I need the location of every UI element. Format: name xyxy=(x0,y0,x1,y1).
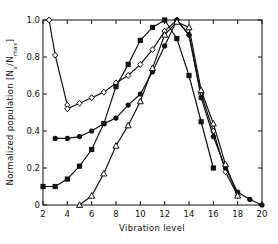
square-marker xyxy=(40,184,45,189)
diamond-marker xyxy=(77,100,82,106)
circle-marker xyxy=(77,134,82,139)
circle-marker xyxy=(126,103,131,108)
x-tick-label: 4 xyxy=(65,209,70,219)
y-axis-label: Normalized population [Nv/Nmax] xyxy=(5,38,18,185)
square-marker xyxy=(89,147,94,152)
square-marker xyxy=(65,177,70,182)
series-open-diamond xyxy=(46,17,240,199)
series-line xyxy=(49,20,238,196)
x-axis-label: Vibration level xyxy=(119,223,185,233)
square-marker xyxy=(186,73,191,78)
x-tick-label: 14 xyxy=(184,209,195,219)
y-tick-label: 0.2 xyxy=(26,163,40,173)
square-marker xyxy=(53,184,58,189)
triangle-marker xyxy=(137,98,143,104)
square-marker xyxy=(150,25,155,30)
square-marker xyxy=(211,165,216,170)
square-marker xyxy=(113,84,118,89)
circle-marker xyxy=(162,43,167,48)
diamond-marker xyxy=(46,17,51,23)
square-marker xyxy=(162,17,167,22)
chart: 246810121416182000.20.40.60.81.0 Vibrati… xyxy=(0,0,278,244)
x-tick-label: 16 xyxy=(208,209,219,219)
circle-marker xyxy=(65,136,70,141)
circle-marker xyxy=(259,202,264,207)
x-tick-label: 2 xyxy=(40,209,45,219)
triangle-marker xyxy=(89,193,95,199)
y-tick-label: 0.6 xyxy=(26,89,40,99)
square-marker xyxy=(77,164,82,169)
plot-axes: 246810121416182000.20.40.60.81.0 xyxy=(26,15,267,219)
y-tick-label: 0.8 xyxy=(26,52,40,62)
x-tick-label: 18 xyxy=(232,209,243,219)
x-tick-label: 8 xyxy=(113,209,118,219)
circle-marker xyxy=(211,134,216,139)
circle-marker xyxy=(53,136,58,141)
triangle-marker xyxy=(125,122,131,128)
plot-series xyxy=(40,17,264,208)
square-marker xyxy=(126,62,131,67)
square-marker xyxy=(174,36,179,41)
circle-marker xyxy=(247,197,252,202)
diamond-marker xyxy=(89,95,94,101)
circle-marker xyxy=(113,115,118,120)
square-marker xyxy=(138,38,143,43)
x-tick-label: 20 xyxy=(257,209,268,219)
y-tick-label: 1.0 xyxy=(26,15,40,25)
x-tick-label: 10 xyxy=(135,209,146,219)
series-filled-circle xyxy=(53,17,265,207)
triangle-marker xyxy=(101,170,107,176)
series-line xyxy=(80,22,238,205)
x-tick-label: 12 xyxy=(159,209,170,219)
x-tick-label: 6 xyxy=(89,209,94,219)
y-tick-label: 0 xyxy=(35,200,40,210)
y-tick-label: 0.4 xyxy=(26,126,40,136)
circle-marker xyxy=(101,121,106,126)
diamond-marker xyxy=(53,52,58,58)
series-open-triangle xyxy=(77,19,241,208)
square-marker xyxy=(199,119,204,124)
circle-marker xyxy=(89,128,94,133)
